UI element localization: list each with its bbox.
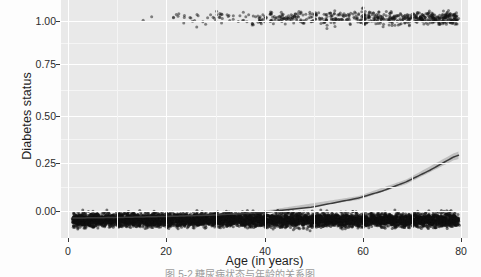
y-axis-ticks: 1.00 0.75 0.50 0.25 0.00	[10, 0, 56, 277]
x-axis-title: Age (in years)	[61, 254, 468, 268]
y-tick-mark	[56, 163, 60, 164]
grid-minor-line	[314, 0, 315, 238]
figure-caption: 图 5-2 糖尿病状态与年龄的关系图	[0, 269, 481, 277]
figure-container: Diabetes status 1.00 0.75 0.50 0.25 0.00	[0, 0, 481, 277]
y-tick-label: 0.25	[10, 157, 56, 169]
grid-major-line	[166, 0, 167, 238]
y-tick-label: 0.75	[10, 58, 56, 70]
grid-major-line	[68, 0, 69, 238]
x-tick-mark	[265, 238, 266, 242]
grid-major-line	[461, 0, 462, 238]
x-tick-mark	[461, 238, 462, 242]
y-tick-mark	[56, 116, 60, 117]
y-tick-mark	[56, 64, 60, 65]
grid-major-line	[363, 0, 364, 238]
grid-minor-line	[216, 0, 217, 238]
y-tick-label: 1.00	[10, 15, 56, 27]
y-tick-label: 0.50	[10, 110, 56, 122]
plot-panel	[61, 0, 468, 238]
x-tick-mark	[166, 238, 167, 242]
x-tick-mark	[363, 238, 364, 242]
y-tick-mark	[56, 211, 60, 212]
y-tick-label: 0.00	[10, 205, 56, 217]
y-tick-mark	[56, 21, 60, 22]
grid-minor-line	[117, 0, 118, 238]
grid-major-line	[265, 0, 266, 238]
x-tick-mark	[68, 238, 69, 242]
grid-minor-line	[412, 0, 413, 238]
